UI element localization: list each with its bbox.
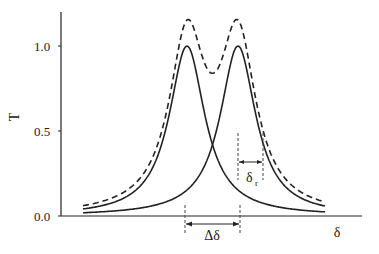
- delta-r-subscript: r: [255, 178, 258, 188]
- delta-r-arrowhead-left: [239, 160, 244, 164]
- delta-r-arrowhead-right: [257, 160, 262, 164]
- chart: 1.0 0.5 0.0 T δ Δδ δ r: [0, 0, 379, 254]
- delta-delta-label: Δδ: [204, 228, 220, 243]
- y-axis-title: T: [7, 112, 22, 121]
- y-tick-label-05: 0.5: [34, 124, 50, 139]
- delta-delta-arrowhead-left: [186, 222, 192, 227]
- y-tick-label-1: 1.0: [34, 39, 50, 54]
- delta-delta-arrowhead-right: [233, 222, 239, 227]
- delta-r-label: δ: [246, 170, 253, 185]
- resonance-curve-1: [83, 46, 325, 212]
- x-axis-title: δ: [334, 225, 341, 240]
- y-tick-label-0: 0.0: [34, 209, 50, 224]
- resonance-curve-2: [83, 46, 325, 213]
